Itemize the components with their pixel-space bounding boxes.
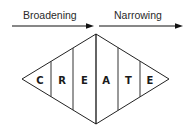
narrowing-label: Narrowing bbox=[114, 9, 162, 21]
letter-e-first: E bbox=[81, 75, 88, 86]
letter-r: R bbox=[58, 75, 66, 86]
narrowing-arrow-icon bbox=[99, 23, 183, 28]
letter-t: T bbox=[125, 75, 132, 86]
create-diamond-diagram: Broadening Narrowing C R E A T E bbox=[0, 0, 191, 130]
letter-e-last: E bbox=[147, 75, 154, 86]
letter-a: A bbox=[102, 75, 110, 86]
letter-c: C bbox=[36, 75, 43, 86]
broadening-arrow-icon bbox=[12, 23, 94, 28]
broadening-label: Broadening bbox=[23, 9, 77, 21]
